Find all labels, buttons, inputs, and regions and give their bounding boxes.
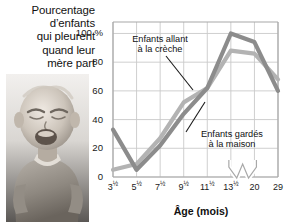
x-axis-tick-label: 9½ bbox=[179, 182, 189, 192]
y-axis-tick-label: 80 bbox=[69, 56, 103, 67]
x-axis-tick-label: 20 bbox=[249, 182, 259, 192]
x-axis-tick-label: 3½ bbox=[108, 182, 118, 192]
x-axis-tick-label: 7½ bbox=[155, 182, 165, 192]
maison-annotation-line-2: à la maison bbox=[182, 139, 282, 149]
maison-annotation-line-1: Enfants gardés bbox=[182, 129, 282, 139]
y-axis-tick-label: 20 bbox=[69, 142, 103, 153]
chart-area: 020406080100 % 3½5½7½9½11½13½2029 Âge (m… bbox=[0, 0, 284, 224]
figure-root: Pourcentage d’enfants qui pleurent quand… bbox=[0, 0, 284, 224]
x-axis-tick-label: 13½ bbox=[223, 182, 238, 192]
y-axis-tick-label: 60 bbox=[69, 85, 103, 96]
x-axis-title: Âge (mois) bbox=[118, 205, 284, 217]
creche-annotation-line-1: Enfants allant bbox=[112, 34, 208, 44]
creche-annotation-line-2: à la crèche bbox=[112, 44, 208, 54]
y-axis-tick-label: 0 bbox=[69, 171, 103, 182]
maison-annotation: Enfants gardés à la maison bbox=[182, 129, 282, 150]
x-axis-tick-label: 11½ bbox=[200, 182, 215, 192]
y-axis-tick-label: 40 bbox=[69, 114, 103, 125]
creche-annotation: Enfants allant à la crèche bbox=[112, 34, 208, 55]
x-axis-tick-label: 29 bbox=[273, 182, 283, 192]
y-axis-tick-label: 100 % bbox=[69, 27, 103, 38]
x-axis-tick-label: 5½ bbox=[131, 182, 141, 192]
